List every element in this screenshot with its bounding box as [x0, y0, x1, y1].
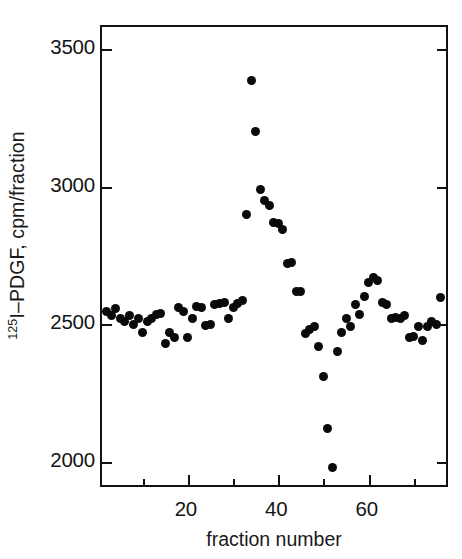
- data-point: [400, 311, 409, 320]
- x-axis-tick-minor: [323, 479, 325, 486]
- data-point: [319, 372, 328, 381]
- data-point: [188, 314, 197, 323]
- data-point: [310, 322, 319, 331]
- x-axis-tick-label: 40: [265, 497, 287, 521]
- y-axis-tick-right: [437, 187, 447, 189]
- y-axis-tick-right: [437, 462, 447, 464]
- data-point: [170, 333, 179, 342]
- data-point: [333, 347, 342, 356]
- data-point: [179, 307, 188, 316]
- data-point: [409, 332, 418, 341]
- data-point: [256, 185, 265, 194]
- data-point: [251, 127, 260, 136]
- data-point: [224, 314, 233, 323]
- y-axis-tick-label: 2000: [29, 448, 95, 472]
- x-axis-tick-label: 20: [175, 497, 197, 521]
- data-point: [156, 309, 165, 318]
- data-point: [314, 342, 323, 351]
- y-axis-tick: [101, 187, 112, 189]
- y-axis-tick-label: 3500: [29, 35, 95, 59]
- y-axis-tick: [101, 324, 112, 326]
- x-axis-tick-label: 60: [355, 497, 377, 521]
- data-point: [206, 320, 215, 329]
- data-point: [328, 463, 337, 472]
- data-point: [414, 322, 423, 331]
- y-axis-tick: [101, 462, 112, 464]
- data-point: [337, 328, 346, 337]
- data-point: [346, 322, 355, 331]
- y-axis-tick-labels: 2000250030003500: [29, 0, 95, 559]
- x-axis-tick-major: [278, 475, 280, 486]
- data-point: [161, 339, 170, 348]
- data-point: [436, 293, 445, 302]
- data-point: [418, 336, 427, 345]
- data-point: [382, 300, 391, 309]
- data-point: [134, 314, 143, 323]
- y-axis-tick: [101, 49, 112, 51]
- data-point: [247, 76, 256, 85]
- x-axis-title: fraction number: [100, 528, 448, 551]
- y-axis-tick-label: 3000: [29, 173, 95, 197]
- data-point: [138, 328, 147, 337]
- data-point: [183, 333, 192, 342]
- data-point: [242, 210, 251, 219]
- y-axis-title-text: 125I–PDGF, cpm/fraction: [6, 131, 29, 339]
- plot-inner: [102, 27, 446, 485]
- data-point: [287, 258, 296, 267]
- data-point: [296, 287, 305, 296]
- data-point: [323, 424, 332, 433]
- x-axis-tick-minor: [233, 479, 235, 486]
- x-axis-tick-minor: [414, 479, 416, 486]
- x-axis-tick-minor: [143, 479, 145, 486]
- y-axis-tick-right: [437, 49, 447, 51]
- data-point: [351, 300, 360, 309]
- data-point: [220, 298, 229, 307]
- x-axis-tick-labels: 204060: [100, 497, 448, 527]
- data-point: [197, 303, 206, 312]
- data-point: [355, 310, 364, 319]
- y-axis-title-superscript: 125: [6, 318, 20, 339]
- y-axis-tick-label: 2500: [29, 310, 95, 334]
- data-point: [278, 225, 287, 234]
- data-point: [360, 292, 369, 301]
- y-axis-title-main: I–PDGF, cpm/fraction: [6, 131, 28, 318]
- data-point: [432, 320, 441, 329]
- data-point: [265, 201, 274, 210]
- data-point: [111, 304, 120, 313]
- plot-area: [100, 25, 448, 487]
- figure-scatter-plot: 125I–PDGF, cpm/fraction 2000250030003500…: [0, 0, 462, 559]
- data-point: [125, 311, 134, 320]
- data-point: [373, 276, 382, 285]
- x-axis-tick-major: [369, 475, 371, 486]
- x-axis-tick-major: [188, 475, 190, 486]
- data-point: [238, 296, 247, 305]
